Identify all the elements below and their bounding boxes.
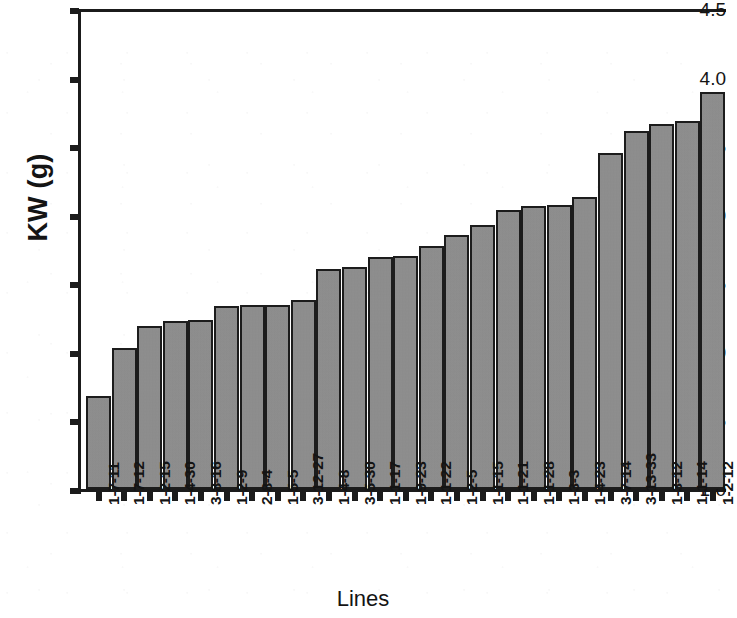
x-axis-tick-mark (454, 492, 460, 501)
x-axis-tick-label: 3-12-27 (309, 453, 327, 505)
x-axis-tick-mark (710, 492, 716, 501)
x-axis-tick-label: 1-5-5 (284, 470, 302, 505)
x-axis-tick-label: 1-1-28 (540, 461, 558, 505)
x-axis-tick-mark (96, 492, 102, 501)
x-axis-tick-label: 3-5-30 (361, 461, 379, 505)
x-axis-tick-mark (608, 492, 614, 501)
x-axis-tick-mark (480, 492, 486, 501)
x-axis-tick-mark (326, 492, 332, 501)
x-axis-tick-label: 1-7-11 (105, 462, 123, 505)
x-axis-tick-mark (428, 492, 434, 501)
x-axis-tick-mark (172, 492, 178, 501)
x-axis-tick-mark (505, 492, 511, 501)
x-axis-tick-mark (224, 492, 230, 501)
x-axis-tick-mark (403, 492, 409, 501)
x-axis-tick-mark (377, 492, 383, 501)
x-axis-tick-label: 3-13-33 (642, 453, 660, 505)
x-axis-tick-label: 1-3-12 (668, 461, 686, 505)
x-axis-title: Lines (0, 586, 726, 612)
x-axis-tick-mark (684, 492, 690, 501)
x-axis-tick-mark (275, 492, 281, 501)
x-axis-tick-label: 3-7-14 (617, 461, 635, 505)
x-axis-tick-label: 2-8-4 (258, 470, 276, 505)
y-axis-title: KW (g) (23, 118, 54, 278)
x-axis-tick-label: 1-2-9 (233, 470, 251, 505)
x-axis-tick-label: 1-2-12 (719, 461, 737, 505)
x-axis-tick-mark (198, 492, 204, 501)
x-axis-tick-mark (582, 492, 588, 501)
x-axis-tick-label: 1-4-8 (335, 470, 353, 505)
x-axis-tick-label: 1-2-5 (463, 470, 481, 505)
x-axis-tick-mark (659, 492, 665, 501)
x-axis-tick-label: 3-8-16 (207, 461, 225, 505)
x-axis-tick-mark (147, 492, 153, 501)
x-axis-tick-mark (249, 492, 255, 501)
x-axis-tick-label: 1-1-21 (514, 461, 532, 505)
x-axis-tick-mark (300, 492, 306, 501)
x-axis-tick-mark (633, 492, 639, 501)
x-axis-ticks: 1-7-111-7-121-2-151-4-303-8-161-2-92-8-4… (78, 0, 726, 618)
x-axis-tick-label: 1-1-15 (489, 461, 507, 505)
x-axis-tick-label: 1-1-22 (437, 461, 455, 505)
x-axis-tick-label: 1-4-23 (591, 461, 609, 505)
x-axis-tick-label: 1-9-23 (412, 461, 430, 505)
x-axis-tick-label: 1-3-3 (565, 470, 583, 505)
x-axis-tick-mark (556, 492, 562, 501)
x-axis-tick-label: 1-2-15 (156, 461, 174, 505)
x-axis-tick-mark (352, 492, 358, 501)
x-axis-tick-label: 1-1-17 (386, 461, 404, 505)
x-axis-tick-label: 1-7-12 (130, 461, 148, 505)
x-axis-tick-mark (121, 492, 127, 501)
x-axis-tick-label: 1-4-30 (181, 461, 199, 505)
x-axis-tick-mark (531, 492, 537, 501)
x-axis-tick-label: 1-1-14 (693, 461, 711, 505)
